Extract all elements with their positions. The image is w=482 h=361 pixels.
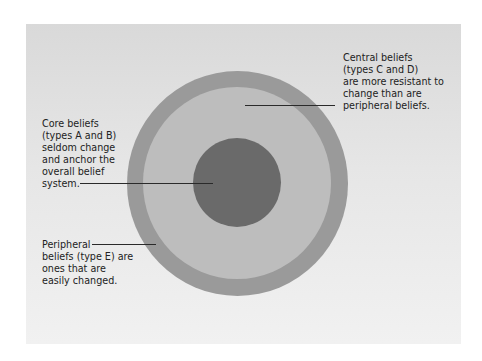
core-beliefs-leader-line	[80, 183, 213, 184]
central-beliefs-label: Central beliefs (types C and D) are more…	[343, 52, 444, 112]
core-beliefs-label: Core beliefs (types A and B) seldom chan…	[42, 118, 116, 190]
peripheral-beliefs-leader-line	[92, 244, 156, 245]
peripheral-beliefs-label: Peripheral beliefs (type E) are ones tha…	[42, 239, 133, 287]
central-beliefs-leader-line	[245, 105, 335, 106]
